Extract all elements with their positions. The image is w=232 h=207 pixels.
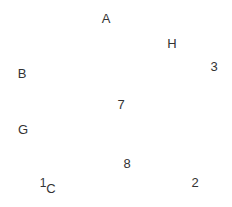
- label-G: G: [18, 123, 28, 136]
- label-8: 8: [123, 157, 130, 170]
- label-B: B: [18, 67, 27, 80]
- label-2: 2: [191, 176, 198, 189]
- label-H: H: [167, 37, 176, 50]
- diagram-canvas: A H 3 B 7 G 8 1 C 2: [0, 0, 232, 207]
- label-3: 3: [210, 60, 217, 73]
- label-7: 7: [117, 98, 124, 111]
- label-C: C: [46, 182, 55, 195]
- label-A: A: [102, 12, 111, 25]
